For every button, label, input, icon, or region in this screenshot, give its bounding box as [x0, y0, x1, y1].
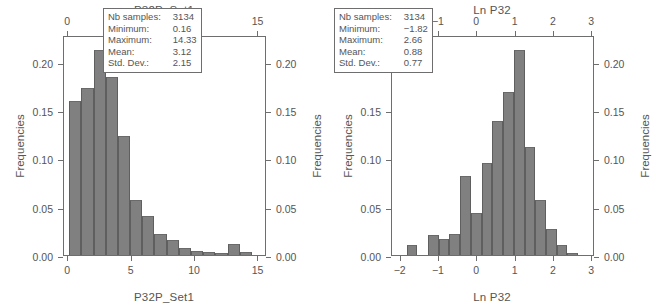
- y-axis-tick-label: 0.20: [276, 58, 296, 70]
- y-axis-tick-label: 0.10: [276, 154, 296, 166]
- histogram-bar: [130, 200, 142, 255]
- histogram-bar: [460, 176, 471, 255]
- x-axis-tick-label: 15: [252, 15, 264, 27]
- y-axis-tick: [58, 257, 63, 258]
- stats-key: Mean:: [108, 46, 173, 58]
- y-axis-tick-label: 0.00: [604, 251, 624, 263]
- histogram-bar: [514, 50, 525, 255]
- x-axis-tick-label: −1: [432, 264, 444, 276]
- x-axis-label-left: P32P_Set1: [0, 291, 328, 303]
- x-axis-tick-label: 15: [252, 264, 264, 276]
- histogram-bar: [535, 200, 546, 255]
- stats-value: 3.12: [173, 46, 197, 58]
- stats-key: Nb samples:: [339, 11, 404, 23]
- histogram-bar: [228, 244, 240, 255]
- stats-value: 3134: [173, 11, 197, 23]
- histogram-bar: [167, 240, 179, 255]
- y-axis-tick-label: 0.05: [276, 203, 296, 215]
- y-axis-tick-label: 0.15: [276, 106, 296, 118]
- x-axis-tick: [515, 31, 516, 36]
- histogram-figure: P32P_Set1 0055101015150.000.000.050.050.…: [0, 0, 656, 305]
- y-axis-tick-label: 0.05: [361, 203, 381, 215]
- histogram-bar: [179, 248, 191, 255]
- x-axis-tick: [476, 256, 477, 261]
- x-axis-tick-label: 1: [512, 264, 518, 276]
- stats-key: Std. Dev.:: [339, 57, 404, 69]
- y-axis-tick: [266, 257, 271, 258]
- histogram-bar: [439, 239, 450, 255]
- x-axis-tick-label: 3: [588, 15, 594, 27]
- y-axis-tick: [594, 64, 599, 65]
- y-axis-tick: [266, 112, 271, 113]
- y-axis-tick: [58, 112, 63, 113]
- histogram-bar: [106, 77, 118, 255]
- x-axis-tick: [67, 256, 68, 261]
- y-axis-tick: [266, 64, 271, 65]
- y-axis-label-right-2: Frequencies: [639, 114, 651, 177]
- y-axis-tick: [594, 257, 599, 258]
- histogram-bar: [525, 147, 536, 255]
- y-axis-tick-label: 0.15: [33, 106, 53, 118]
- stats-row: Std. Dev.:0.77: [339, 57, 428, 69]
- x-axis-tick: [515, 256, 516, 261]
- stats-box-left: Nb samples:3134Minimum:0.16Maximum:14.33…: [103, 8, 202, 73]
- y-axis-tick-label: 0.00: [361, 251, 381, 263]
- y-axis-tick: [266, 160, 271, 161]
- x-axis-tick-label: 0: [473, 264, 479, 276]
- y-axis-tick-label: 0.05: [33, 203, 53, 215]
- stats-key: Std. Dev.:: [108, 57, 173, 69]
- x-axis-tick: [591, 31, 592, 36]
- y-axis-tick-label: 0.00: [33, 251, 53, 263]
- panel-ln-p32: Ln P32 −2−2−1−1001122330.000.000.050.050…: [328, 0, 656, 305]
- x-axis-tick: [257, 31, 258, 36]
- stats-value: −1.82: [404, 23, 428, 35]
- histogram-bar: [471, 213, 482, 255]
- histogram-bar: [118, 136, 130, 255]
- histogram-bar: [557, 245, 568, 255]
- stats-key: Mean:: [339, 46, 404, 58]
- stats-value: 3134: [404, 11, 428, 23]
- x-axis-tick: [257, 256, 258, 261]
- y-axis-tick-label: 0.00: [276, 251, 296, 263]
- x-axis-tick-label: 1: [512, 15, 518, 27]
- stats-key: Minimum:: [108, 23, 173, 35]
- histogram-bar: [69, 101, 81, 255]
- y-axis-tick-label: 0.10: [33, 154, 53, 166]
- stats-box-right: Nb samples:3134Minimum:−1.82Maximum:2.66…: [334, 8, 433, 73]
- histogram-bar: [191, 251, 203, 255]
- histogram-bar: [503, 92, 514, 255]
- x-axis-tick: [438, 31, 439, 36]
- x-axis-tick: [591, 256, 592, 261]
- stats-value: 0.88: [404, 46, 428, 58]
- stats-value: 2.15: [173, 57, 197, 69]
- y-axis-tick: [594, 112, 599, 113]
- stats-row: Std. Dev.:2.15: [108, 57, 197, 69]
- stats-row: Nb samples:3134: [108, 11, 197, 23]
- histogram-bar: [154, 234, 166, 255]
- histogram-bar: [215, 253, 227, 255]
- stats-row: Mean:3.12: [108, 46, 197, 58]
- x-axis-tick-label: 5: [128, 264, 134, 276]
- panel-p32p-set1: P32P_Set1 0055101015150.000.000.050.050.…: [0, 0, 328, 305]
- stats-value: 2.66: [404, 34, 428, 46]
- y-axis-tick: [58, 209, 63, 210]
- histogram-bar: [81, 88, 93, 255]
- x-axis-tick: [438, 256, 439, 261]
- x-axis-tick-label: −1: [432, 15, 444, 27]
- histogram-bar: [492, 121, 503, 255]
- x-axis-tick: [400, 256, 401, 261]
- stats-row: Nb samples:3134: [339, 11, 428, 23]
- stats-key: Nb samples:: [108, 11, 173, 23]
- histogram-bar: [567, 253, 578, 255]
- y-axis-tick: [386, 112, 391, 113]
- stats-row: Maximum:2.66: [339, 34, 428, 46]
- y-axis-tick: [386, 257, 391, 258]
- y-axis-tick: [386, 160, 391, 161]
- y-axis-tick-label: 0.15: [604, 106, 624, 118]
- y-axis-tick: [58, 160, 63, 161]
- stats-key: Maximum:: [108, 34, 173, 46]
- y-axis-tick-label: 0.20: [604, 58, 624, 70]
- x-axis-tick-label: 2: [550, 264, 556, 276]
- histogram-bar: [449, 234, 460, 255]
- y-axis-label-left: Frequencies: [14, 114, 26, 177]
